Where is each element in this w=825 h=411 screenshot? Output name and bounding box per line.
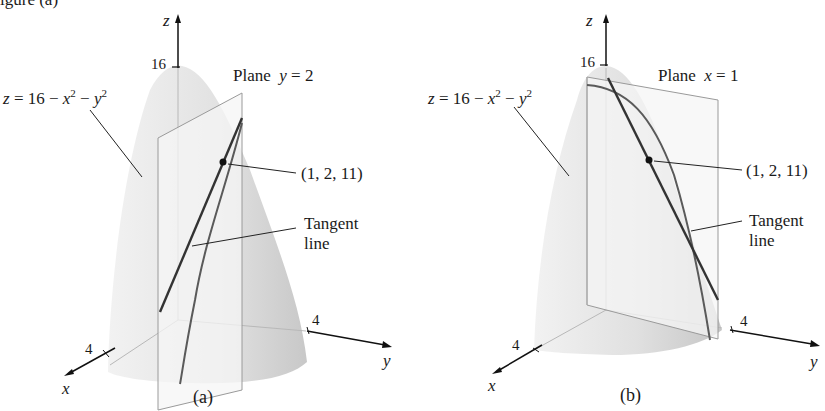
y-axis-label: y bbox=[383, 352, 391, 369]
surface-equation-label: z = 16 − x2 − y2 bbox=[3, 88, 107, 107]
y-tick-4: 4 bbox=[312, 313, 320, 328]
tangent-label-line2: line bbox=[304, 235, 330, 252]
tangent-label-line1: Tangent bbox=[749, 212, 804, 229]
tangent-label-line2: line bbox=[749, 232, 775, 249]
tangent-label-line1: Tangent bbox=[304, 215, 359, 232]
figure-b: z 16 z = 16 − x2 − y2 Plane x = 1 (1, 2,… bbox=[412, 0, 825, 411]
figure-a: igure (a) z 16 z = 16 − x2 − y2 Plane y … bbox=[0, 0, 412, 411]
z-tick-16: 16 bbox=[580, 55, 595, 70]
x-axis bbox=[0, 0, 115, 142]
plane-label: Plane y = 2 bbox=[233, 67, 313, 84]
y-axis bbox=[307, 331, 385, 345]
figure-b-graphic bbox=[412, 0, 825, 411]
surface-equation-label: z = 16 − x2 − y2 bbox=[428, 88, 532, 107]
y-axis bbox=[730, 330, 812, 344]
plane-x1 bbox=[587, 77, 718, 339]
point-label: (1, 2, 11) bbox=[301, 165, 363, 182]
y-tick-4: 4 bbox=[740, 314, 748, 329]
figure-a-graphic bbox=[0, 0, 412, 411]
x-axis-label: x bbox=[488, 377, 496, 394]
plane-label: Plane x = 1 bbox=[658, 67, 738, 84]
caption-b: (b) bbox=[620, 386, 641, 404]
y-axis-label: y bbox=[810, 353, 818, 370]
x-axis-label: x bbox=[62, 380, 70, 397]
z-tick-16: 16 bbox=[151, 57, 166, 72]
x-tick-4: 4 bbox=[512, 338, 520, 353]
point-1-2-11 bbox=[646, 157, 653, 164]
header-fragment: igure (a) bbox=[0, 0, 58, 10]
z-axis-label: z bbox=[163, 12, 170, 29]
x-tick-4: 4 bbox=[85, 342, 93, 357]
z-axis-label: z bbox=[586, 12, 593, 29]
caption-a: (a) bbox=[193, 388, 213, 406]
point-label: (1, 2, 11) bbox=[746, 162, 808, 179]
point-1-2-11 bbox=[220, 159, 227, 166]
plane-y2 bbox=[158, 93, 242, 410]
